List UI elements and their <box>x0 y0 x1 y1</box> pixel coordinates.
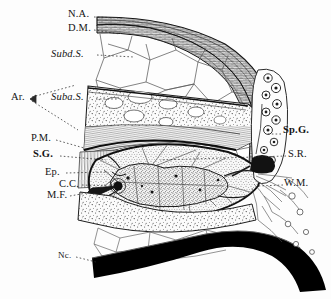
label-ep: Ep. <box>45 167 60 178</box>
label-ar: Ar. <box>11 92 25 103</box>
label-na: N.A. <box>68 9 89 20</box>
label-wm: W.M. <box>284 178 308 189</box>
label-subd: Subd.S. <box>51 49 84 60</box>
label-cc: C.C. <box>59 179 79 190</box>
anatomical-figure: N.A. D.M. Subd.S. Ar. Suba.S. P.M. S.G. … <box>0 0 331 299</box>
label-mf: M.F. <box>47 190 67 201</box>
label-nc: Nc. <box>58 251 71 260</box>
label-pm: P.M. <box>31 133 51 144</box>
label-dm: D.M. <box>68 23 91 34</box>
label-spg: Sp.G. <box>283 125 309 136</box>
label-suba: Suba.S. <box>51 92 84 103</box>
label-sr: S.R. <box>288 149 307 160</box>
label-sg: S.G. <box>33 149 53 160</box>
